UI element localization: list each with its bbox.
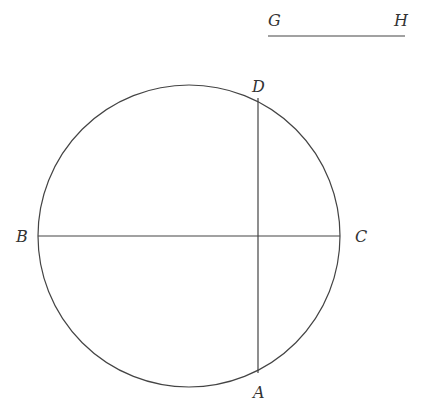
geometry-diagram: G H D B C A [0,0,424,413]
point-label-b: B [15,227,28,246]
point-label-d: D [251,77,265,96]
point-label-a: A [251,383,265,402]
point-label-g: G [268,11,281,30]
point-label-c: C [355,227,367,246]
point-label-h: H [393,11,409,30]
diagram-canvas: G H D B C A [0,0,424,413]
